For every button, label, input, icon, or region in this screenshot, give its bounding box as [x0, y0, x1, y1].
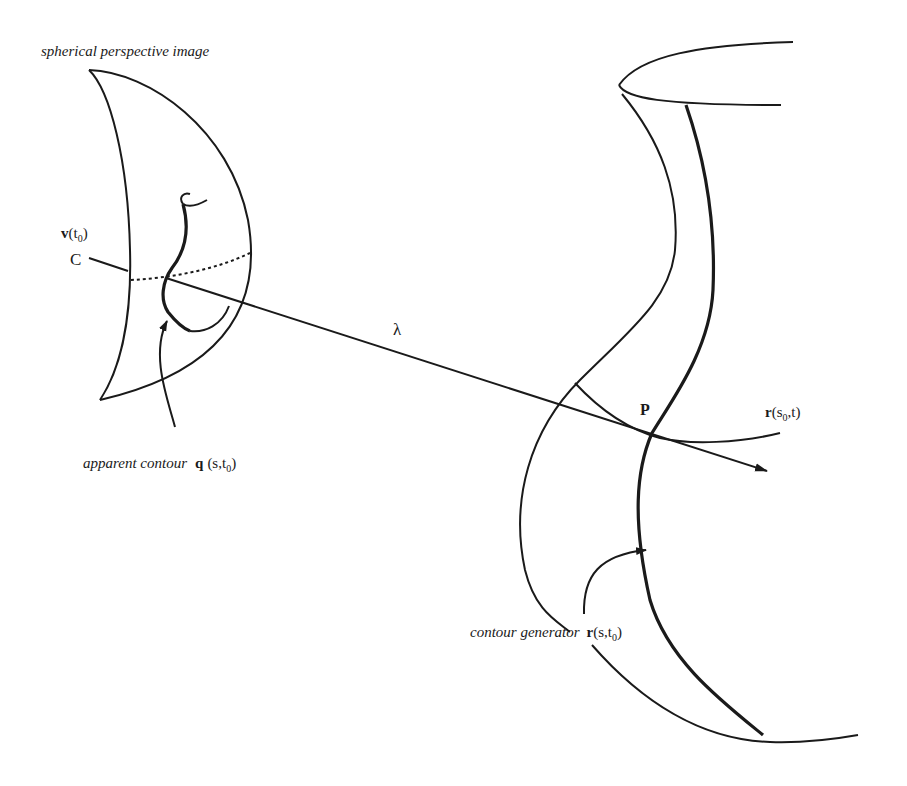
- contour-generator-subscript: 0: [612, 632, 617, 643]
- contour-generator-curve: [638, 105, 763, 735]
- viewpoint-arg-open: (t: [69, 225, 78, 241]
- apparent-contour-text: apparent contour: [83, 455, 187, 471]
- contour-generator-text: contour generator: [470, 624, 580, 640]
- viewpoint-symbol: v: [61, 225, 69, 241]
- diagram-canvas: [0, 0, 907, 786]
- viewpoint-subscript: 0: [78, 233, 83, 244]
- apparent-contour-symbol: q: [195, 455, 203, 471]
- s0-curve-subscript: 0: [783, 412, 788, 423]
- apparent-contour-arg-open: (s,t: [207, 455, 226, 471]
- dotted-great-circle: [131, 253, 250, 280]
- apparent-contour-subscript: 0: [226, 463, 231, 474]
- contour-generator-pointer-arrow: [584, 550, 646, 614]
- contour-generator-arg-close: ): [617, 624, 622, 640]
- apparent-contour-label: apparent contour q (s,t0): [83, 455, 236, 471]
- point-p-label: P: [640, 402, 650, 418]
- center-label: C: [70, 251, 81, 268]
- s0-curve-symbol: r: [765, 404, 772, 420]
- lambda-label: λ: [393, 321, 401, 338]
- apparent-contour-curve: [163, 194, 229, 332]
- spherical-image-crescent: [89, 70, 251, 400]
- spherical-image-label: spherical perspective image: [41, 44, 209, 59]
- contour-generator-label: contour generator r(s,t0): [470, 624, 622, 640]
- contour-generator-arg-open: (s,t: [593, 624, 612, 640]
- s0-curve-label: r(s0,t): [765, 405, 800, 420]
- viewpoint-label: v(t0): [61, 226, 88, 241]
- viewpoint-arg-close: ): [83, 225, 88, 241]
- s0-curve-arg-open: (s: [772, 404, 783, 420]
- apparent-contour-arg-close: ): [231, 455, 236, 471]
- s0-curve-arg-close: ,t): [788, 404, 801, 420]
